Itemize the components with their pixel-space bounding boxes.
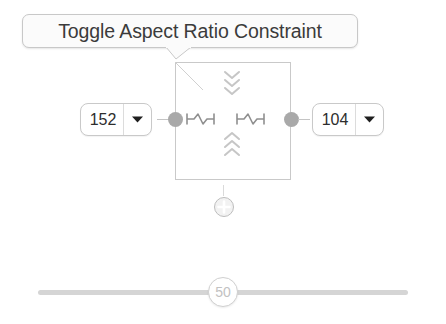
add-button-stem [223,185,224,196]
slider-value-label: 50 [215,284,231,300]
right-spring-icon[interactable] [236,111,276,127]
width-stepper[interactable]: 152 [80,103,152,136]
inner-top-chevrons[interactable] [219,70,245,94]
chevron-down-icon [131,115,144,124]
inner-bottom-chevrons[interactable] [219,131,245,155]
chevron-down-icon [223,86,241,96]
width-dropdown-button[interactable] [123,104,151,135]
right-anchor-dot[interactable] [284,112,299,127]
add-constraint-button[interactable] [213,196,235,218]
chevron-up-icon [223,147,241,157]
slider-thumb[interactable]: 50 [208,277,238,307]
tooltip-tail-icon [166,47,192,60]
height-stepper[interactable]: 104 [312,103,384,136]
left-anchor-dot[interactable] [168,112,183,127]
height-value[interactable]: 104 [313,104,355,135]
tooltip: Toggle Aspect Ratio Constraint [22,14,358,48]
value-slider[interactable]: 50 [38,281,408,303]
inspector-canvas: Toggle Aspect Ratio Constraint [0,0,446,324]
left-spring-icon[interactable] [186,111,226,127]
width-value[interactable]: 152 [81,104,123,135]
chevron-down-icon [363,115,376,124]
tooltip-label: Toggle Aspect Ratio Constraint [58,20,322,43]
right-connector-line [298,119,310,120]
height-dropdown-button[interactable] [355,104,383,135]
